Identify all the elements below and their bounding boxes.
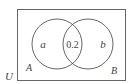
region-b-label: b [100, 38, 106, 50]
set-a-name: A [25, 62, 33, 73]
set-b-name: B [111, 65, 117, 76]
universe-label: U [5, 70, 14, 82]
intersection-label: 0.2 [66, 39, 79, 50]
venn-diagram-canvas: a 0.2 b A B U [0, 0, 131, 84]
region-a-label: a [40, 38, 46, 50]
venn-diagram: a 0.2 b A B U [0, 0, 131, 84]
